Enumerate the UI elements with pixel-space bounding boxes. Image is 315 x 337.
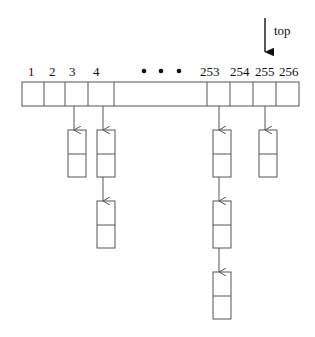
bucket-array <box>22 82 299 106</box>
chain-bucket-4 <box>97 106 115 248</box>
ellipsis <box>142 69 182 74</box>
index-label: 254 <box>230 64 250 79</box>
chain-bucket-253 <box>213 106 231 319</box>
chain-bucket-255 <box>259 106 277 177</box>
index-label: 2 <box>49 64 56 79</box>
index-label: 1 <box>28 64 35 79</box>
chain-bucket-3 <box>68 106 86 177</box>
index-label: 255 <box>255 64 275 79</box>
index-label: 256 <box>279 64 299 79</box>
index-label: 253 <box>200 64 220 79</box>
index-label: 3 <box>69 64 76 79</box>
array-index-labels: 1 2 3 4 253 254 255 256 <box>28 64 299 79</box>
index-label: 4 <box>93 64 100 79</box>
top-pointer: top <box>265 18 291 52</box>
hash-table-diagram: top 1 2 3 4 253 254 255 256 <box>0 0 315 337</box>
top-label: top <box>274 23 291 38</box>
